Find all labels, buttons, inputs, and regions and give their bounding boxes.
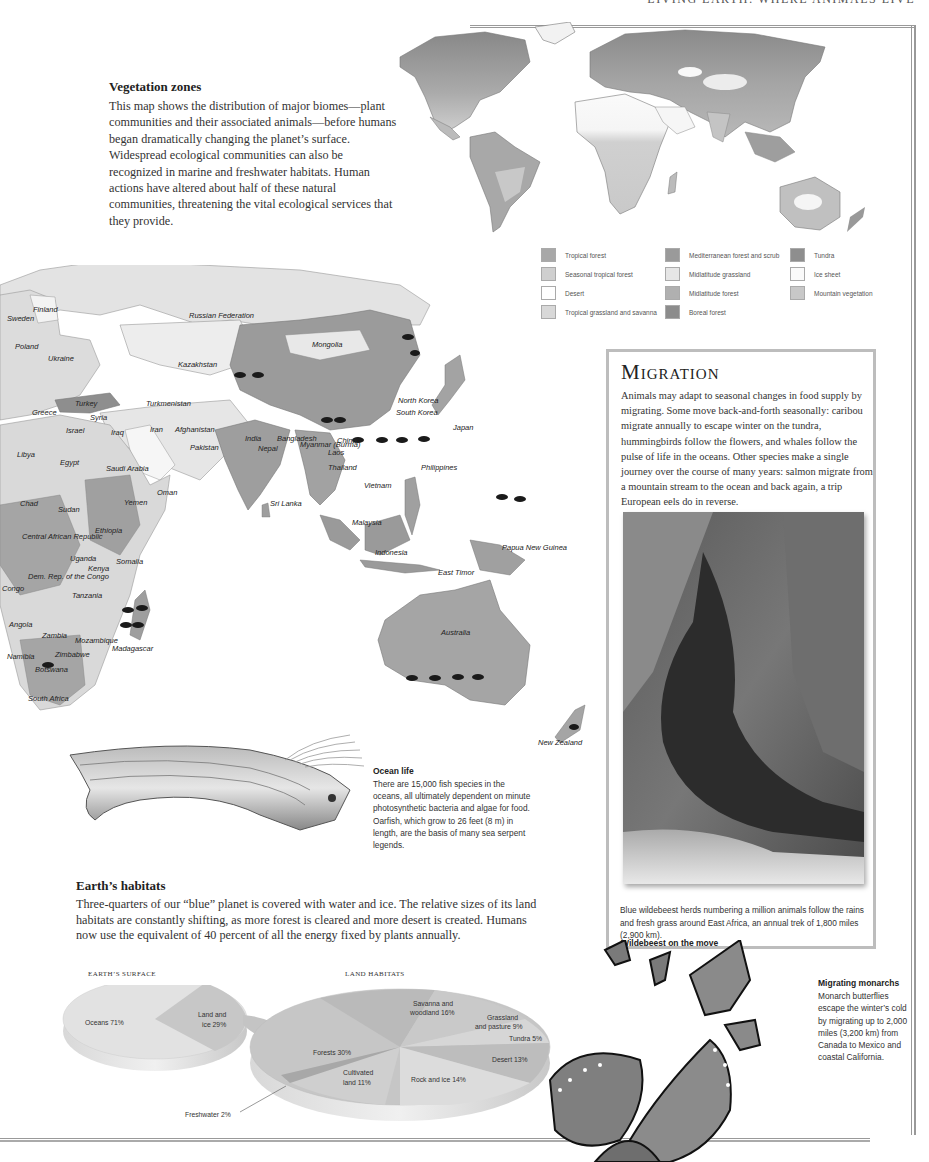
swatch-icon (665, 267, 680, 281)
svg-text:Finland: Finland (33, 305, 58, 314)
svg-text:Madagascar: Madagascar (112, 644, 154, 653)
swatch-icon (541, 248, 556, 262)
regional-political-map: Finland Sweden Poland Ukraine Russian Fe… (0, 265, 600, 745)
svg-text:Mongolia: Mongolia (312, 340, 342, 349)
svg-text:Vietnam: Vietnam (364, 481, 391, 490)
earths-surface-chart-title: EARTH’S SURFACE (88, 970, 156, 978)
swatch-icon (790, 267, 805, 281)
legend-item-mediterranean: Mediterranean forest and scrub (665, 248, 790, 262)
svg-text:Congo: Congo (2, 584, 24, 593)
svg-text:Turkmenistan: Turkmenistan (146, 399, 191, 408)
svg-text:Nepal: Nepal (258, 444, 278, 453)
monarchs-title: Migrating monarchs (818, 978, 913, 988)
migration-title: Migration (621, 360, 720, 385)
svg-text:woodland 16%: woodland 16% (409, 1009, 455, 1016)
world-vegetation-map (395, 22, 875, 237)
migrating-monarchs-caption: Migrating monarchs Monarch butterflies e… (818, 978, 913, 1064)
swatch-icon (790, 248, 805, 262)
svg-text:Thailand: Thailand (328, 463, 358, 472)
svg-text:Namibia: Namibia (7, 652, 35, 661)
legend-item-tundra: Tundra (790, 248, 915, 262)
legend-item-tropical-forest: Tropical forest (541, 248, 665, 262)
svg-text:Iraq: Iraq (111, 428, 125, 437)
svg-text:New Zealand: New Zealand (538, 738, 583, 745)
svg-text:Kazakhstan: Kazakhstan (178, 360, 217, 369)
svg-text:Forests 30%: Forests 30% (313, 1049, 351, 1056)
svg-text:Iran: Iran (150, 425, 163, 434)
svg-text:Zimbabwe: Zimbabwe (54, 650, 90, 659)
legend-item-midlatitude-forest: Midlatitude forest (665, 286, 790, 300)
svg-text:Ukraine: Ukraine (48, 354, 74, 363)
svg-text:Libya: Libya (17, 450, 35, 459)
svg-text:Freshwater 2%: Freshwater 2% (185, 1111, 231, 1118)
vegetation-zones-body: This map shows the distribution of major… (109, 98, 399, 229)
svg-text:Saudi Arabia: Saudi Arabia (106, 464, 149, 473)
legend-item-boreal-forest: Boreal forest (665, 305, 790, 319)
svg-text:Malaysia: Malaysia (352, 518, 382, 527)
svg-text:Oceans 71%: Oceans 71% (85, 1019, 124, 1026)
oarfish-illustration (50, 720, 380, 840)
svg-text:Uganda: Uganda (70, 554, 96, 563)
habitats-body: Three-quarters of our “blue” planet is c… (76, 897, 546, 944)
svg-text:land 11%: land 11% (343, 1079, 371, 1086)
ocean-life-caption: Ocean life There are 15,000 fish species… (373, 766, 533, 851)
svg-text:Oman: Oman (157, 488, 177, 497)
svg-text:Chad: Chad (20, 499, 39, 508)
svg-text:ice 29%: ice 29% (202, 1021, 226, 1028)
svg-text:Sri Lanka: Sri Lanka (270, 499, 302, 508)
svg-text:North Korea: North Korea (398, 396, 438, 405)
svg-text:Egypt: Egypt (60, 458, 80, 467)
svg-text:South Africa: South Africa (28, 694, 69, 703)
swatch-icon (665, 286, 680, 300)
svg-text:Central African Republic: Central African Republic (22, 532, 103, 541)
svg-text:East Timor: East Timor (438, 568, 475, 577)
svg-text:Savanna and: Savanna and (413, 1000, 453, 1007)
legend-item-ice-sheet: Ice sheet (790, 267, 915, 281)
svg-text:Land and: Land and (198, 1011, 227, 1018)
legend-item-mountain: Mountain vegetation (790, 286, 915, 300)
earths-habitats-section: Earth’s habitats Three-quarters of our “… (76, 878, 546, 944)
svg-text:Papua New Guinea: Papua New Guinea (502, 543, 567, 552)
svg-text:Israel: Israel (66, 426, 85, 435)
swatch-icon (665, 248, 680, 262)
svg-text:Sweden: Sweden (7, 314, 34, 323)
svg-text:Cultivated: Cultivated (343, 1069, 373, 1076)
ocean-life-body: There are 15,000 fish species in the oce… (373, 778, 533, 851)
svg-text:Poland: Poland (15, 342, 39, 351)
svg-text:Syria: Syria (90, 413, 107, 422)
svg-text:Laos: Laos (328, 448, 345, 457)
monarchs-body: Monarch butterflies escape the winter’s … (818, 990, 913, 1064)
wildebeest-photo (623, 512, 864, 884)
svg-text:Indonesia: Indonesia (375, 548, 408, 557)
migration-body: Animals may adapt to seasonal changes in… (621, 388, 873, 510)
svg-text:Somalia: Somalia (116, 557, 143, 566)
svg-text:Yemen: Yemen (124, 498, 147, 507)
svg-text:Japan: Japan (452, 423, 473, 432)
migration-panel: Migration Animals may adapt to seasonal … (606, 349, 876, 949)
svg-text:Philippines: Philippines (421, 463, 458, 472)
svg-text:Rock and ice 14%: Rock and ice 14% (411, 1076, 466, 1083)
svg-text:Sudan: Sudan (58, 505, 80, 514)
svg-text:Zambia: Zambia (41, 631, 67, 640)
svg-text:Pakistan: Pakistan (190, 443, 219, 452)
svg-text:Turkey: Turkey (75, 399, 99, 408)
svg-text:India: India (245, 434, 261, 443)
habitat-pie-charts: Oceans 71% Land and ice 29% Forests 30% … (55, 985, 555, 1135)
habitats-title: Earth’s habitats (76, 878, 546, 894)
svg-text:Tanzania: Tanzania (72, 591, 102, 600)
vegetation-zones-title: Vegetation zones (109, 79, 399, 95)
svg-text:Angola: Angola (8, 620, 32, 629)
swatch-icon (790, 286, 805, 300)
ocean-life-title: Ocean life (373, 766, 533, 776)
legend-item-midlatitude-grassland: Midlatitude grassland (665, 267, 790, 281)
svg-text:Afghanistan: Afghanistan (174, 425, 215, 434)
svg-text:Dem. Rep. of the Congo: Dem. Rep. of the Congo (28, 572, 109, 581)
swatch-icon (665, 305, 680, 319)
svg-text:South Korea: South Korea (396, 408, 438, 417)
svg-text:Greece: Greece (32, 408, 57, 417)
land-habitats-chart-title: LAND HABITATS (345, 970, 405, 978)
wildebeest-caption: Blue wildebeest herds numbering a millio… (620, 904, 880, 942)
svg-text:Australia: Australia (440, 628, 470, 637)
svg-text:Botswana: Botswana (35, 665, 68, 674)
vegetation-zones-section: Vegetation zones This map shows the dist… (109, 79, 399, 229)
